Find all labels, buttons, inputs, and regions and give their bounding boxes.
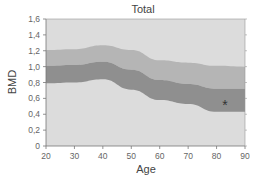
x-axis-ticks: 2030405060708090	[41, 146, 250, 161]
y-tick-label: 0,6	[28, 93, 40, 103]
x-tick-label: 80	[212, 151, 222, 161]
asterisk-annotation: *	[222, 97, 228, 113]
x-tick-label: 60	[155, 151, 165, 161]
y-axis-label: BMD	[6, 70, 18, 95]
x-tick-label: 90	[240, 151, 250, 161]
y-tick-label: 1,0	[28, 62, 40, 72]
y-tick-label: 0,8	[28, 78, 40, 88]
y-tick-label: 1,4	[28, 30, 40, 40]
x-tick-label: 20	[41, 151, 51, 161]
y-tick-label: 1,6	[28, 14, 40, 24]
x-tick-label: 30	[70, 151, 80, 161]
x-tick-label: 50	[127, 151, 137, 161]
y-tick-label: 1,2	[28, 46, 40, 56]
x-axis-label: Age	[136, 163, 156, 175]
y-tick-label: 0,4	[28, 109, 40, 119]
y-tick-label: 0	[35, 141, 40, 151]
x-tick-label: 70	[183, 151, 193, 161]
x-tick-label: 40	[98, 151, 108, 161]
y-tick-label: 0,2	[28, 125, 40, 135]
chart-title: Total	[131, 3, 154, 15]
bmd-chart: Total 00,20,40,60,81,01,21,41,6 20304050…	[0, 0, 255, 178]
